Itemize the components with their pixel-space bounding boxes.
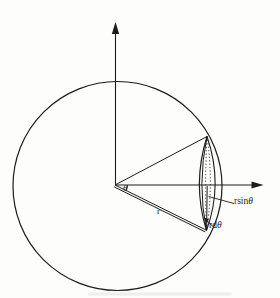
- r-sin-theta-label-prefix: rsin: [234, 196, 248, 206]
- r-sin-theta-segment: [207, 186, 208, 230]
- r-d-theta-label-symbol: θ: [217, 220, 222, 230]
- r-d-theta-label: rdθ: [209, 221, 222, 231]
- y-axis-arrowhead-icon: [112, 22, 119, 34]
- band-outer-edge: [207, 137, 216, 231]
- theta-angle-label: θ: [123, 184, 127, 193]
- x-axis-arrowhead-icon: [252, 181, 264, 188]
- sphere-ring-diagram: θ r rsinθ rdθ: [0, 0, 280, 298]
- band-front-edge-1: [199, 137, 207, 231]
- radius-lower-theta: [115, 185, 206, 230]
- r-sin-theta-label-symbol: θ: [248, 196, 253, 206]
- r-sin-theta-label: rsinθ: [234, 197, 253, 207]
- r-d-theta-label-prefix: rd: [209, 220, 217, 230]
- radius-label: r: [157, 207, 160, 216]
- scan-artifact: [88, 293, 232, 296]
- radius-upper: [115, 137, 207, 186]
- diagram-svg: [0, 0, 280, 298]
